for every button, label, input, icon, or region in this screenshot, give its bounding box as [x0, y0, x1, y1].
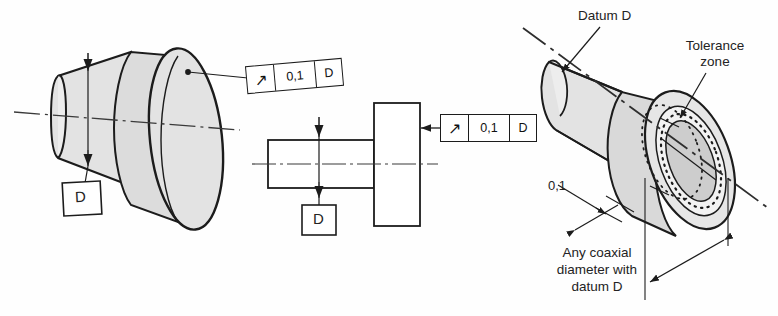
coaxial-note-line2: diameter with	[541, 262, 653, 277]
left-flange-disc	[114, 45, 231, 234]
datum-reference-left: D	[315, 59, 343, 87]
datum-letter-left: D	[75, 189, 87, 206]
tolerance-zone-label-line1: Tolerance	[666, 38, 764, 53]
view-middle-orthographic	[252, 103, 440, 235]
datum-callout-leader	[562, 27, 600, 72]
coaxial-note-line3: datum D	[545, 279, 649, 294]
tolerance-zone-label-line2: zone	[666, 54, 764, 69]
datum-callout-label: Datum D	[578, 8, 631, 23]
tolerance-value-middle: 0,1	[469, 115, 510, 141]
circular-runout-icon: ↗	[441, 115, 469, 141]
datum-letter-middle: D	[313, 211, 324, 228]
view-left-pictorial	[14, 45, 248, 234]
feature-control-frame-middle[interactable]: ↗ 0,1 D	[440, 114, 537, 142]
datum-reference-middle: D	[510, 115, 536, 141]
drawing-sheet: ↗ 0,1 D ↗ 0,1 D D D Datum D Tolerance zo…	[0, 0, 778, 316]
zone-width-label: 0,1	[548, 178, 566, 193]
coaxial-note-line1: Any coaxial	[545, 245, 649, 260]
drawing-canvas	[0, 0, 778, 316]
circular-runout-icon: ↗	[246, 65, 276, 93]
tolerance-value-left: 0,1	[274, 61, 317, 90]
